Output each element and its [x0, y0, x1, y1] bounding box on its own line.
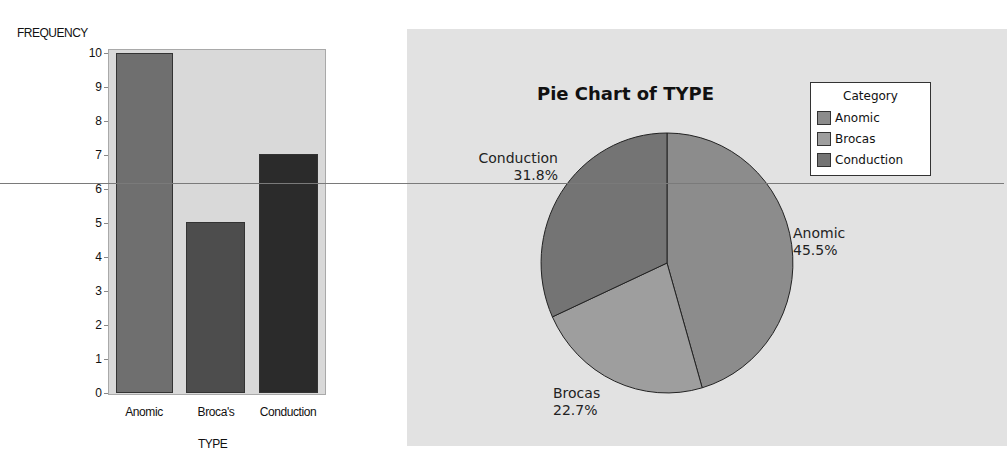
pie-chart-title: Pie Chart of TYPE — [537, 83, 714, 104]
pie-label-pct: 31.8% — [458, 167, 558, 184]
legend-item-anomic: Anomic — [817, 110, 880, 126]
horizontal-guide-line — [0, 183, 1004, 184]
pie-label-name: Anomic — [793, 225, 845, 242]
legend-title: Category — [811, 89, 930, 103]
pie-label-conduction: Conduction 31.8% — [458, 150, 558, 184]
pie-label-pct: 45.5% — [793, 242, 845, 259]
pie-label-brocas: Brocas 22.7% — [553, 385, 600, 419]
pie-legend: Category Anomic Brocas Conduction — [810, 82, 931, 176]
pie-label-anomic: Anomic 45.5% — [793, 225, 845, 259]
pie-label-pct: 22.7% — [553, 402, 600, 419]
legend-swatch-brocas — [817, 132, 831, 146]
legend-swatch-conduction — [817, 153, 831, 167]
legend-label: Conduction — [835, 153, 903, 167]
legend-swatch-anomic — [817, 111, 831, 125]
legend-item-brocas: Brocas — [817, 131, 875, 147]
legend-item-conduction: Conduction — [817, 152, 903, 168]
legend-label: Anomic — [835, 111, 880, 125]
legend-label: Brocas — [835, 132, 875, 146]
pie-label-name: Brocas — [553, 385, 600, 402]
pie-label-name: Conduction — [458, 150, 558, 167]
